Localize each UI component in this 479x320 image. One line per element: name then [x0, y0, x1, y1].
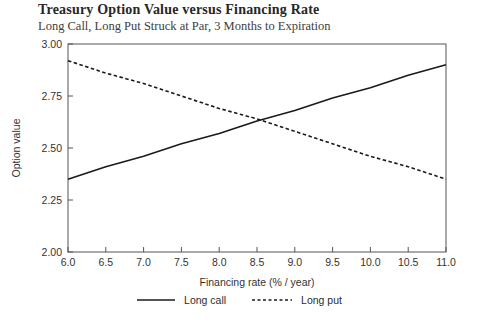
- y-tick-label: 2.75: [42, 90, 63, 102]
- x-tick-label: 9.5: [325, 256, 340, 268]
- legend: Long call Long put: [0, 294, 479, 306]
- x-tick-label: 6.0: [61, 256, 76, 268]
- y-tick-label: 2.25: [42, 194, 63, 206]
- x-tick-label: 11.0: [436, 256, 456, 268]
- legend-label-long-call: Long call: [184, 294, 226, 306]
- x-tick-label: 9.0: [287, 256, 302, 268]
- x-axis-title: Financing rate (% / year): [68, 276, 446, 288]
- x-tick-label: 7.5: [174, 256, 189, 268]
- figure: Treasury Option Value versus Financing R…: [0, 0, 479, 320]
- y-axis-title: Option value: [10, 88, 22, 208]
- y-tick-label: 2.00: [42, 246, 63, 258]
- y-tick-label: 2.50: [42, 142, 63, 154]
- x-tick-label: 8.5: [250, 256, 265, 268]
- x-tick-label: 10.0: [360, 256, 381, 268]
- dashed-line-icon: [252, 297, 292, 303]
- legend-label-long-put: Long put: [301, 294, 342, 306]
- x-tick-label: 10.5: [398, 256, 419, 268]
- plot-frame: [68, 44, 446, 252]
- legend-item-long-call: Long call: [137, 294, 226, 306]
- solid-line-icon: [137, 297, 175, 303]
- x-tick-label: 6.5: [98, 256, 113, 268]
- x-tick-label: 7.0: [136, 256, 151, 268]
- legend-item-long-put: Long put: [252, 294, 342, 306]
- plot-area: 6.06.57.07.58.08.59.09.510.010.511.02.00…: [0, 0, 479, 320]
- y-tick-label: 3.00: [42, 38, 63, 50]
- x-tick-label: 8.0: [212, 256, 227, 268]
